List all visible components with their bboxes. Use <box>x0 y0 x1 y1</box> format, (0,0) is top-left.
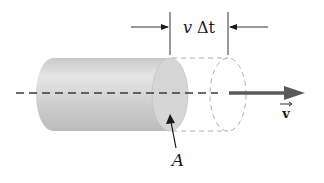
cylinder-flow-diagram: v vΔt A <box>0 0 324 183</box>
svg-text:v: v <box>281 106 290 121</box>
velocity-arrow <box>229 86 305 100</box>
dimension-label: vΔt <box>183 18 216 37</box>
velocity-label: v <box>280 102 292 121</box>
solid-cylinder <box>36 58 188 131</box>
area-label: A <box>170 150 184 170</box>
